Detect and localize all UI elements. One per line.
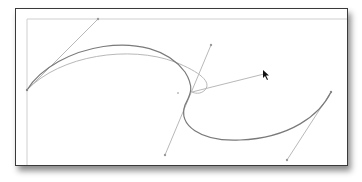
handle-point-middle-bottom[interactable] — [164, 154, 166, 156]
vector-canvas[interactable] — [0, 0, 362, 182]
handle-point-right[interactable] — [286, 159, 288, 161]
handle-point-left[interactable] — [97, 18, 99, 20]
bezier-path[interactable] — [27, 45, 331, 140]
center-point — [177, 92, 179, 94]
handle-point-middle-top[interactable] — [210, 44, 212, 46]
handle-left[interactable] — [27, 19, 98, 90]
preview-path — [27, 54, 207, 93]
anchor-left[interactable] — [26, 89, 28, 91]
guide-lines — [27, 19, 347, 165]
direction-handles[interactable] — [27, 18, 331, 161]
direct-selection-cursor-icon — [263, 70, 269, 80]
handle-middle-drag[interactable] — [192, 74, 264, 92]
anchor-points[interactable] — [26, 89, 332, 93]
anchor-right[interactable] — [330, 91, 332, 93]
